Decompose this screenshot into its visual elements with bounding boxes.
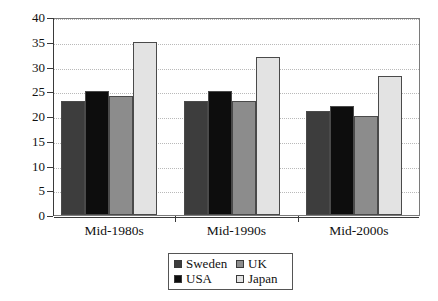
legend-entry-sweden[interactable]: Sweden xyxy=(174,257,236,270)
bar-uk-mid-2000s xyxy=(354,116,378,215)
bar-uk-mid-1990s xyxy=(232,101,256,215)
y-axis-tick-label: 15 xyxy=(3,135,45,148)
y-axis-tick xyxy=(47,68,53,69)
bar-japan-mid-1990s xyxy=(256,57,280,215)
legend-entry-uk[interactable]: UK xyxy=(236,257,294,270)
legend-swatch-icon xyxy=(174,275,182,283)
y-axis-tick xyxy=(47,142,53,143)
y-axis-tick-label: 30 xyxy=(3,61,45,74)
legend-grid: SwedenUKUSAJapan xyxy=(174,256,287,286)
bar-group xyxy=(306,19,402,215)
bar-chart: 0510152025303540 Mid-1980sMid-1990sMid-2… xyxy=(0,0,438,301)
plot-area xyxy=(53,18,420,216)
bar-usa-mid-1980s xyxy=(85,91,109,215)
y-axis-tick-label: 10 xyxy=(3,160,45,173)
x-axis-label-mid-1980s: Mid-1980s xyxy=(53,223,175,239)
y-axis-tick xyxy=(47,216,53,217)
x-axis-tick xyxy=(298,216,299,222)
bar-usa-mid-1990s xyxy=(208,91,232,215)
bar-sweden-mid-1990s xyxy=(184,101,208,215)
bar-usa-mid-2000s xyxy=(330,106,354,215)
bar-group xyxy=(184,19,280,215)
x-axis-label-mid-2000s: Mid-2000s xyxy=(298,223,420,239)
legend-swatch-icon xyxy=(236,275,244,283)
legend-entry-usa[interactable]: USA xyxy=(174,272,236,285)
y-axis-tick xyxy=(47,92,53,93)
y-axis-tick-label: 20 xyxy=(3,110,45,123)
legend-label: Sweden xyxy=(186,257,227,270)
bar-uk-mid-1980s xyxy=(109,96,133,215)
legend-entry-japan[interactable]: Japan xyxy=(236,272,294,285)
legend-swatch-icon xyxy=(236,260,244,268)
plot-inner xyxy=(54,19,419,215)
x-axis-tick xyxy=(175,216,176,222)
y-axis-tick-label: 25 xyxy=(3,85,45,98)
legend-label: USA xyxy=(186,272,212,285)
y-axis-tick-label: 35 xyxy=(3,36,45,49)
y-axis-tick-label: 40 xyxy=(3,11,45,24)
bar-group xyxy=(61,19,157,215)
legend-label: Japan xyxy=(248,272,278,285)
y-axis-tick xyxy=(47,167,53,168)
bar-japan-mid-2000s xyxy=(378,76,402,215)
bar-sweden-mid-1980s xyxy=(61,101,85,215)
y-axis-tick xyxy=(47,191,53,192)
legend: SwedenUKUSAJapan xyxy=(168,253,293,290)
y-axis-tick xyxy=(47,43,53,44)
bar-sweden-mid-2000s xyxy=(306,111,330,215)
y-axis-labels: 0510152025303540 xyxy=(0,0,45,301)
y-axis-tick xyxy=(47,18,53,19)
bar-japan-mid-1980s xyxy=(133,42,157,215)
legend-label: UK xyxy=(248,257,267,270)
y-axis-tick-label: 5 xyxy=(3,184,45,197)
y-axis-tick xyxy=(47,117,53,118)
y-axis-tick-label: 0 xyxy=(3,209,45,222)
x-axis-label-mid-1990s: Mid-1990s xyxy=(175,223,297,239)
gridline xyxy=(54,217,419,218)
legend-swatch-icon xyxy=(174,260,182,268)
y-axis-line xyxy=(53,18,54,216)
